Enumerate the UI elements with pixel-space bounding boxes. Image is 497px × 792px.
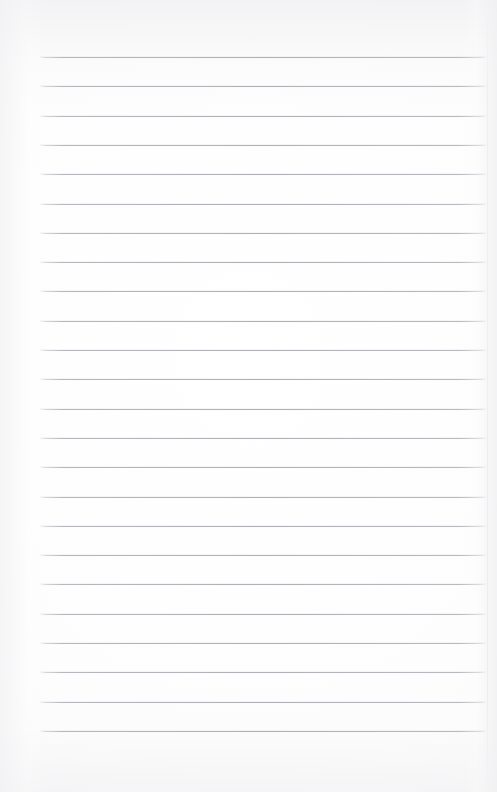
ruled-line <box>40 672 486 673</box>
ruled-line <box>40 145 486 146</box>
ruled-line <box>40 467 486 468</box>
ruled-lines-layer <box>0 0 497 792</box>
ruled-line <box>40 731 486 732</box>
ruled-line <box>40 291 486 292</box>
ruled-line <box>40 497 486 498</box>
ruled-line <box>40 438 486 439</box>
ruled-line <box>40 350 486 351</box>
ruled-line <box>40 409 486 410</box>
ruled-line <box>40 321 486 322</box>
ruled-line <box>40 526 486 527</box>
ruled-line <box>40 702 486 703</box>
ruled-line <box>40 57 486 58</box>
ruled-line <box>40 86 486 87</box>
ruled-line <box>40 643 486 644</box>
ruled-line <box>40 204 486 205</box>
ruled-line <box>40 379 486 380</box>
ruled-line <box>40 262 486 263</box>
ruled-line <box>40 116 486 117</box>
ruled-line <box>40 174 486 175</box>
lined-page <box>0 0 497 792</box>
ruled-line <box>40 584 486 585</box>
ruled-line <box>40 555 486 556</box>
ruled-line <box>40 614 486 615</box>
ruled-line <box>40 233 486 234</box>
